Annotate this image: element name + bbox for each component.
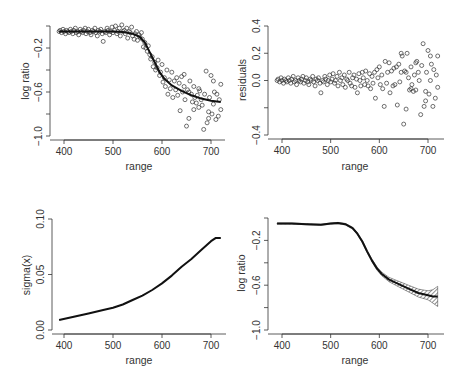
data-point	[404, 107, 408, 111]
data-point	[388, 91, 392, 95]
x-tick-label: 600	[371, 340, 388, 351]
fitted-curve	[277, 223, 438, 296]
x-tick-label: 400	[274, 340, 291, 351]
data-point	[427, 92, 431, 96]
y-tick-label: −1.0	[251, 320, 262, 340]
data-point	[407, 76, 411, 80]
data-point	[126, 36, 130, 40]
data-point	[323, 74, 327, 78]
data-point	[385, 81, 389, 85]
x-tick-label: 400	[56, 146, 73, 157]
data-point	[187, 116, 191, 120]
x-tick-label: 700	[203, 146, 220, 157]
x-tick-label: 700	[420, 145, 437, 156]
data-point	[205, 121, 209, 125]
data-point	[130, 25, 134, 29]
data-point	[353, 85, 357, 89]
data-point	[402, 122, 406, 126]
data-point	[381, 87, 385, 91]
data-point	[359, 84, 363, 88]
data-point	[361, 76, 365, 80]
data-point	[343, 85, 347, 89]
data-point	[347, 70, 351, 74]
data-point	[156, 58, 160, 62]
data-point	[211, 102, 215, 106]
y-axis-label: residuals	[236, 59, 248, 101]
data-point	[118, 34, 122, 38]
y-tick-label: 0.2	[251, 46, 262, 60]
x-axis-label: range	[126, 160, 153, 172]
x-tick-label: 500	[322, 340, 339, 351]
data-point	[416, 70, 420, 74]
data-point	[355, 91, 359, 95]
figure-canvas: 400500600700−0.2−0.6−1.0 range log ratio…	[0, 0, 468, 384]
x-axis-label: range	[342, 160, 369, 172]
data-point	[211, 79, 215, 83]
y-tick-label: −0.4	[251, 125, 262, 145]
y-axis-label: log ratio	[19, 62, 31, 100]
x-tick-label: 700	[203, 340, 220, 351]
data-point	[375, 68, 379, 72]
data-point	[215, 92, 219, 96]
data-point	[185, 124, 189, 128]
data-point	[114, 24, 118, 28]
data-point	[380, 73, 384, 77]
data-point	[165, 68, 169, 72]
y-tick-label: 0.0	[251, 73, 262, 87]
data-point	[168, 87, 172, 91]
data-point	[434, 73, 438, 77]
data-point	[395, 103, 399, 107]
x-tick-label: 400	[56, 340, 73, 351]
data-point	[170, 70, 174, 74]
data-point	[160, 63, 164, 67]
points-layer	[275, 42, 440, 126]
data-point	[207, 116, 211, 120]
data-point	[216, 114, 220, 118]
data-point	[180, 75, 184, 79]
y-tick-label: −0.2	[33, 38, 44, 58]
data-point	[177, 81, 181, 85]
x-tick-label: 600	[371, 145, 388, 156]
figure: 400500600700−0.2−0.6−1.0 range log ratio…	[0, 0, 468, 384]
y-axis-label: sigma(x)	[20, 255, 32, 295]
data-point	[368, 72, 372, 76]
data-point	[378, 83, 382, 87]
data-point	[431, 104, 435, 108]
data-point	[188, 79, 192, 83]
data-point	[209, 74, 213, 78]
data-point	[370, 74, 374, 78]
x-tick-label: 700	[420, 340, 437, 351]
data-point	[364, 69, 368, 73]
data-point	[426, 49, 430, 53]
axes: 400500600700−0.2−0.6−1.0	[251, 218, 444, 351]
data-point	[101, 39, 105, 43]
data-point	[371, 81, 375, 85]
data-point	[342, 73, 346, 77]
data-point	[436, 54, 440, 58]
data-point	[386, 70, 390, 74]
y-tick-label: −0.6	[33, 82, 44, 102]
data-point	[311, 74, 315, 78]
y-axis-label: log ratio	[235, 254, 247, 292]
fitted-curve	[59, 32, 221, 102]
data-point	[436, 85, 440, 89]
data-point	[409, 65, 413, 69]
data-point	[176, 93, 180, 97]
y-tick-label: −0.2	[251, 230, 262, 250]
points-layer	[57, 23, 223, 131]
y-tick-label: 0.4	[251, 19, 262, 33]
data-point	[428, 79, 432, 83]
x-tick-label: 600	[154, 340, 171, 351]
data-point	[420, 64, 424, 68]
x-tick-label: 400	[274, 145, 291, 156]
x-axis-label: range	[126, 354, 153, 366]
data-point	[428, 54, 432, 58]
data-point	[383, 59, 387, 63]
data-point	[313, 84, 317, 88]
data-point	[425, 70, 429, 74]
data-point	[182, 85, 186, 89]
data-point	[331, 72, 335, 76]
data-point	[412, 73, 416, 77]
x-tick-label: 500	[105, 340, 122, 351]
data-point	[325, 83, 329, 87]
